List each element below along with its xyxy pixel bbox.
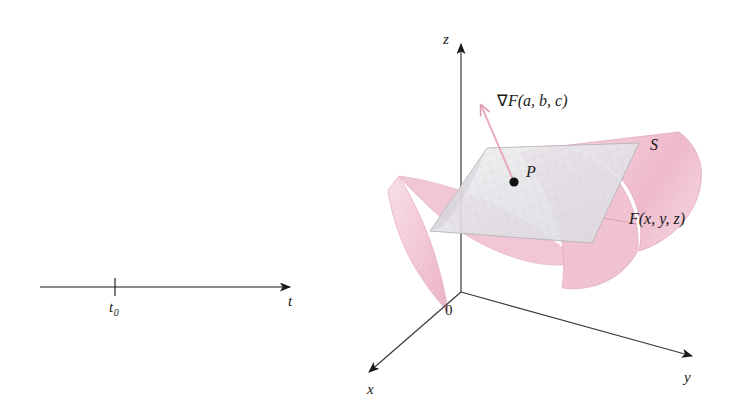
t-number-line: t0 t xyxy=(40,278,293,318)
point-P-dot xyxy=(509,177,518,186)
z-axis-label: z xyxy=(442,31,449,47)
gradient-label: ∇F(a, b, c) xyxy=(496,92,568,110)
origin-label: 0 xyxy=(445,302,453,318)
t-axis-label: t xyxy=(288,293,293,309)
surface-S-label: S xyxy=(650,136,658,153)
function-label: F(x, y, z) xyxy=(628,210,685,228)
3d-gradient-diagram: z y x 0 ∇F(a, b, c) P S F(x, y, z) xyxy=(366,31,701,397)
t0-label: t0 xyxy=(109,299,119,318)
x-axis-label: x xyxy=(366,381,374,397)
y-axis-label: y xyxy=(682,369,691,385)
y-axis-line xyxy=(461,292,692,356)
point-P-label: P xyxy=(525,163,536,180)
figure-root: t0 t xyxy=(0,0,738,412)
